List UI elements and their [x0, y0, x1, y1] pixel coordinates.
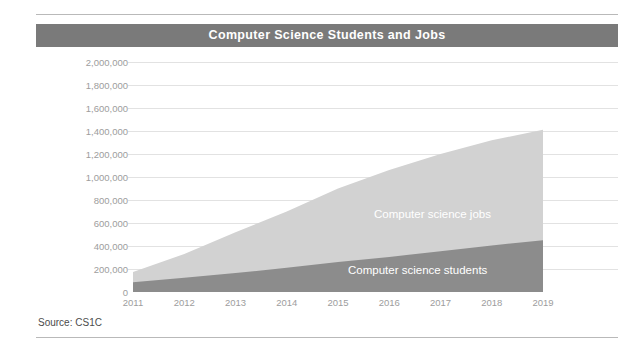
- x-axis-tick-label: 2011: [108, 298, 158, 308]
- chart-figure: Computer Science Students and Jobs 0200,…: [0, 0, 636, 349]
- y-axis-tick-label: 1,600,000: [54, 104, 128, 114]
- bottom-divider-rule: [36, 337, 618, 338]
- x-axis-tick-labels: 201120122013201420152016201720182019: [0, 298, 636, 312]
- y-axis-tick-labels: 0200,000400,000600,000800,0001,000,0001,…: [54, 0, 128, 349]
- y-axis-tick-label: 1,400,000: [54, 127, 128, 137]
- x-axis-tick-label: 2016: [364, 298, 414, 308]
- x-axis-tick-label: 2015: [313, 298, 363, 308]
- source-note: Source: CS1C: [38, 318, 102, 328]
- y-axis-tick-label: 200,000: [54, 265, 128, 275]
- y-axis-tick-label: 800,000: [54, 196, 128, 206]
- y-axis-tick-label: 600,000: [54, 219, 128, 229]
- x-axis-tick-label: 2014: [262, 298, 312, 308]
- y-axis-tick-label: 1,800,000: [54, 81, 128, 91]
- series-label-students: Computer science students: [348, 265, 487, 277]
- y-axis-tick-label: 1,200,000: [54, 150, 128, 160]
- series-label-jobs: Computer science jobs: [374, 209, 491, 221]
- y-axis-tick-label: 1,000,000: [54, 173, 128, 183]
- y-axis-tick-label: 2,000,000: [54, 58, 128, 68]
- x-axis-tick-label: 2019: [518, 298, 568, 308]
- plot-area: 0200,000400,000600,000800,0001,000,0001,…: [0, 0, 636, 349]
- x-axis-tick-label: 2017: [416, 298, 466, 308]
- x-axis-tick-label: 2012: [159, 298, 209, 308]
- y-axis-tick-label: 0: [54, 288, 128, 298]
- y-axis-tick-label: 400,000: [54, 242, 128, 252]
- x-axis-tick-label: 2018: [467, 298, 517, 308]
- x-axis-tick-label: 2013: [211, 298, 261, 308]
